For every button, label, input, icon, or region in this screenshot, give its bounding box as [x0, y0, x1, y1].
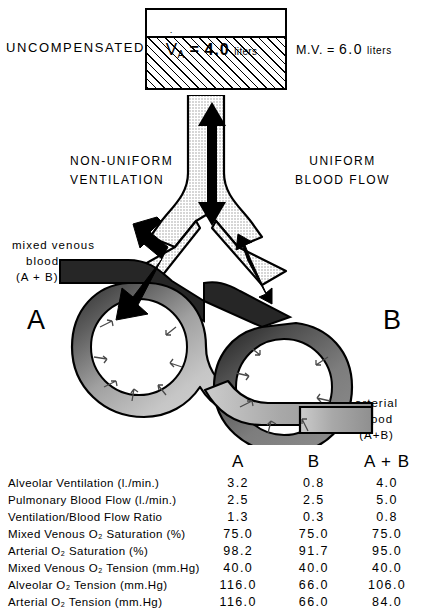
- va-unit: liters: [234, 46, 257, 57]
- row-label: Alveolar O₂ Tension (mm.Hg): [0, 576, 200, 593]
- physiology-data-table: A B A + B Alveolar Ventilation (l./min.)…: [0, 450, 423, 610]
- box-unventilated-region: [147, 10, 285, 38]
- table-row: Mixed Venous O₂ Saturation (%)75.075.075…: [0, 525, 423, 542]
- header-col-b: B: [277, 450, 352, 474]
- cell-a: 116.0: [200, 593, 277, 610]
- table-row: Arterial O₂ Tension (mm.Hg)116.066.084.0: [0, 593, 423, 610]
- cell-a: 2.5: [200, 491, 277, 508]
- cell-ab: 4.0: [351, 474, 423, 491]
- cell-b: 2.5: [277, 491, 352, 508]
- header-col-ab: A + B: [351, 450, 423, 474]
- row-label: Alveolar Ventilation (l./min.): [0, 474, 200, 491]
- cell-b: 66.0: [277, 576, 352, 593]
- cell-a: 3.2: [200, 474, 277, 491]
- mv-value: 6.0: [339, 41, 363, 57]
- header-blank: [0, 450, 200, 474]
- va-equals: =: [189, 41, 199, 58]
- cell-a: 116.0: [200, 576, 277, 593]
- cell-b: 75.0: [277, 525, 352, 542]
- cell-b: 91.7: [277, 542, 352, 559]
- va-dot-icon: ˙: [170, 31, 174, 42]
- tidal-ventilation-arrow: [196, 100, 228, 228]
- table-row: Mixed Venous O₂ Tension (mm.Hg)40.040.04…: [0, 559, 423, 576]
- mv-unit: liters: [367, 45, 392, 56]
- header-col-a: A: [200, 450, 277, 474]
- mv-prefix: M.V. =: [296, 43, 335, 57]
- va-symbol: ˙VA: [166, 40, 185, 59]
- row-label: Arterial O₂ Saturation (%): [0, 542, 200, 559]
- cell-a: 1.3: [200, 508, 277, 525]
- row-label: Mixed Venous O₂ Saturation (%): [0, 525, 200, 542]
- table-row: Pulmonary Blood Flow (l./min.)2.52.55.0: [0, 491, 423, 508]
- cell-b: 0.8: [277, 474, 352, 491]
- cell-ab: 95.0: [351, 542, 423, 559]
- table-body: Alveolar Ventilation (l./min.)3.20.84.0P…: [0, 474, 423, 610]
- minute-volume-label: M.V. = 6.0 liters: [296, 41, 392, 57]
- table-row: Arterial O₂ Saturation (%)98.291.795.0: [0, 542, 423, 559]
- cell-a: 75.0: [200, 525, 277, 542]
- table-row: Alveolar Ventilation (l./min.)3.20.84.0: [0, 474, 423, 491]
- row-label: Ventilation/Blood Flow Ratio: [0, 508, 200, 525]
- row-label: Arterial O₂ Tension (mm.Hg): [0, 593, 200, 610]
- table-row: Alveolar O₂ Tension (mm.Hg)116.066.0106.…: [0, 576, 423, 593]
- cell-ab: 5.0: [351, 491, 423, 508]
- row-label: Mixed Venous O₂ Tension (mm.Hg): [0, 559, 200, 576]
- row-label: Pulmonary Blood Flow (l./min.): [0, 491, 200, 508]
- table-row: Ventilation/Blood Flow Ratio1.30.30.8: [0, 508, 423, 525]
- cell-b: 40.0: [277, 559, 352, 576]
- cell-b: 0.3: [277, 508, 352, 525]
- data-table: A B A + B Alveolar Ventilation (l./min.)…: [0, 450, 423, 610]
- cell-ab: 84.0: [351, 593, 423, 610]
- cell-ab: 106.0: [351, 576, 423, 593]
- cell-a: 98.2: [200, 542, 277, 559]
- cell-b: 66.0: [277, 593, 352, 610]
- cell-ab: 75.0: [351, 525, 423, 542]
- table-header-row: A B A + B: [0, 450, 423, 474]
- cell-ab: 40.0: [351, 559, 423, 576]
- venous-branch-to-b: [204, 282, 290, 327]
- cell-a: 40.0: [200, 559, 277, 576]
- va-value: 4.0: [204, 41, 229, 58]
- cell-ab: 0.8: [351, 508, 423, 525]
